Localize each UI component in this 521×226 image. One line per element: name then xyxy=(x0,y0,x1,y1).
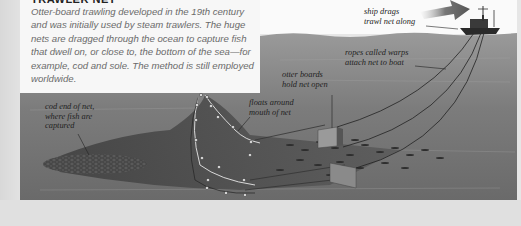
bottom-margin xyxy=(0,200,521,226)
label-ship-drags: ship drags trawl net along xyxy=(364,7,415,26)
info-body: Otter-board trawling developed in the 19… xyxy=(31,5,261,85)
label-warps: ropes called warps attach net to boat xyxy=(345,48,408,67)
left-margin xyxy=(0,0,20,226)
page: TRAWLER NET Otter-board trawling develop… xyxy=(0,0,521,226)
label-cod-end: cod end of net, where fish are captured xyxy=(45,102,94,131)
label-floats: floats around mouth of net xyxy=(249,98,294,117)
direction-arrow xyxy=(420,0,470,20)
label-otter-boards: otter boards hold net open xyxy=(282,70,328,89)
